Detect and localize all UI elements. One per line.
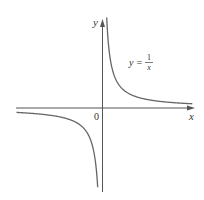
y-axis (100, 19, 105, 192)
function-annotation: y = 1 x (128, 53, 153, 72)
annotation-denominator: x (146, 63, 151, 72)
origin-label: 0 (94, 111, 99, 122)
x-axis (16, 106, 195, 111)
y-axis-label: y (92, 16, 98, 28)
function-graph: y x 0 y = 1 x (0, 0, 204, 200)
x-axis-label: x (188, 110, 194, 122)
annotation-prefix: y = (128, 57, 143, 68)
negative-branch-curve (17, 112, 98, 187)
annotation-numerator: 1 (147, 53, 151, 62)
y-axis-arrow-icon (100, 19, 105, 27)
